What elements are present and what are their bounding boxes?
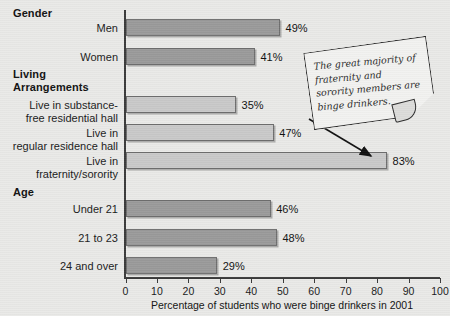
binge-drinking-bar-chart: Gender Living Arrangements Age Men Women… [0,0,450,316]
category-label-women: Women [80,51,118,64]
x-tick [346,278,347,283]
x-tick-label: 80 [364,285,390,297]
callout-note-text: The great majority of fraternity and sor… [313,50,423,113]
bar-value-label: 41% [260,51,282,63]
group-header-gender: Gender [13,7,52,20]
category-label-substance-free-hall: Live in substance- free residential hall [26,99,118,124]
bar-value-label: 46% [276,203,298,215]
bar [126,200,271,217]
category-label-24-and-over: 24 and over [60,260,118,273]
bar [126,124,274,141]
x-tick [440,278,441,283]
bar-value-label: 83% [393,155,415,167]
x-tick [157,278,158,283]
x-axis-title: Percentage of students who were binge dr… [124,299,440,311]
bar-value-label: 49% [286,22,308,34]
bar-value-label: 35% [242,99,264,111]
x-tick [409,278,410,283]
x-tick [251,278,252,283]
group-header-age: Age [13,186,34,199]
x-tick-label: 20 [175,285,201,297]
x-tick [126,278,127,283]
group-header-living-arrangements: Living Arrangements [13,68,89,93]
x-tick [188,278,189,283]
bar-value-label: 48% [282,232,304,244]
category-label-under-21: Under 21 [73,203,118,216]
bar [126,229,277,246]
x-tick [283,278,284,283]
category-label-21-to-23: 21 to 23 [78,232,118,245]
x-tick-label: 70 [333,285,359,297]
x-tick-label: 30 [207,285,233,297]
x-tick-label: 10 [144,285,170,297]
x-tick-label: 0 [113,285,139,297]
x-tick [220,278,221,283]
category-label-regular-residence-hall: Live in regular residence hall [13,127,118,152]
bar [126,257,217,274]
callout-note: The great majority of fraternity and sor… [303,36,437,130]
bar [126,19,280,36]
x-tick [314,278,315,283]
x-tick-label: 90 [396,285,422,297]
bar-value-label: 29% [223,260,245,272]
bar [126,96,236,113]
x-tick [377,278,378,283]
x-tick-label: 50 [270,285,296,297]
x-tick-label: 60 [301,285,327,297]
bar [126,48,255,65]
category-label-men: Men [97,22,118,35]
x-tick-label: 40 [238,285,264,297]
x-tick-label: 100 [427,285,450,297]
category-label-fraternity-sorority: Live in fraternity/sorority [36,155,118,180]
